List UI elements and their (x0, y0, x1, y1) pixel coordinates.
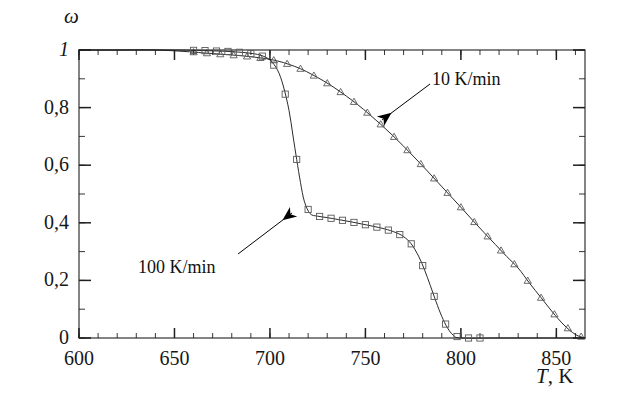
x-tick-label: 650 (144, 348, 204, 368)
y-tick-label: 0 (7, 327, 69, 347)
annotation-10-k-per-min: 10 K/min (432, 70, 501, 88)
data-series-layer (79, 47, 585, 341)
x-tick-label: 600 (49, 348, 109, 368)
series-curve (79, 50, 585, 338)
y-tick-label: 0,8 (7, 97, 69, 117)
axis-ticks (79, 50, 585, 338)
series-hundred-k-per-min (79, 47, 585, 341)
x-tick-label: 700 (240, 348, 300, 368)
y-tick-label: 1 (7, 39, 69, 59)
scientific-figure: ω T, K 60065070075080085000,20,40,60,81 … (0, 0, 631, 409)
series-curve (79, 50, 585, 338)
y-tick-label: 0,2 (7, 269, 69, 289)
annotation-arrows (238, 84, 430, 254)
series-markers (190, 49, 585, 340)
series-markers (190, 47, 483, 341)
annotation-arrow (382, 84, 430, 120)
y-tick-label: 0,4 (7, 212, 69, 232)
annotation-arrow (238, 213, 292, 254)
x-tick-label: 850 (526, 348, 586, 368)
series-ten-k-per-min (79, 49, 585, 340)
annotation-100-k-per-min: 100 K/min (138, 258, 216, 276)
y-axis-label: ω (64, 6, 79, 27)
y-tick-label: 0,6 (7, 154, 69, 174)
x-axis-label: T, K (536, 366, 573, 387)
x-tick-label: 800 (431, 348, 491, 368)
axis-frame (79, 50, 585, 338)
x-tick-label: 750 (335, 348, 395, 368)
